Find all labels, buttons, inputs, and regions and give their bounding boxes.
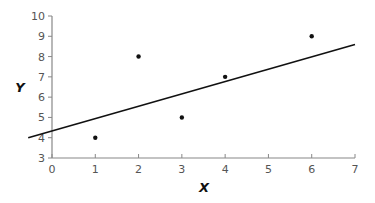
y-tick-label: 6	[38, 91, 45, 104]
x-tick-label: 5	[265, 163, 272, 176]
trend-line	[28, 44, 355, 137]
data-point	[223, 75, 227, 79]
data-point	[180, 115, 184, 119]
data-point	[136, 54, 140, 58]
x-tick-label: 3	[178, 163, 185, 176]
data-point	[93, 136, 97, 140]
y-tick-label: 8	[38, 51, 45, 64]
y-tick-label: 9	[38, 30, 45, 43]
x-tick-label: 6	[308, 163, 315, 176]
x-tick-label: 0	[49, 163, 56, 176]
x-tick-label: 1	[92, 163, 99, 176]
y-tick-label: 5	[38, 111, 45, 124]
y-tick-label: 10	[31, 10, 45, 23]
x-axis-title: X	[198, 180, 210, 195]
x-tick-label: 7	[352, 163, 359, 176]
scatter-chart: 345678910 01234567 Y X	[0, 0, 375, 203]
x-tick-label: 4	[222, 163, 229, 176]
data-point	[310, 34, 314, 38]
y-tick-label: 3	[38, 152, 45, 165]
x-tick-label: 2	[135, 163, 142, 176]
y-axis-title: Y	[15, 80, 26, 95]
y-tick-label: 7	[38, 71, 45, 84]
x-axis-ticks: 01234567	[49, 154, 359, 176]
y-axis-ticks: 345678910	[31, 10, 52, 165]
